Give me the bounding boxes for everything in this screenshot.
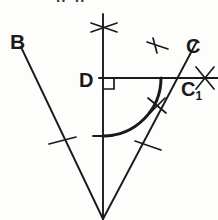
label-point-c1-subscript: 1	[195, 89, 202, 103]
tick-ray-right-icon	[135, 141, 161, 150]
label-point-c1: C1	[181, 79, 202, 99]
geometry-figure: p g	[0, 0, 218, 220]
right-angle-marker	[103, 78, 114, 89]
tick-arc-upper-icon	[147, 38, 168, 53]
label-point-d: D	[79, 70, 93, 90]
tick-ray-left-icon	[49, 137, 76, 144]
tick-vertical-top-icon	[91, 23, 117, 32]
label-point-b: B	[10, 31, 25, 52]
label-point-c: C	[186, 36, 200, 56]
geometry-canvas	[0, 0, 218, 220]
ray-right-to-c	[103, 43, 196, 219]
label-point-c1-base: C	[181, 78, 195, 100]
